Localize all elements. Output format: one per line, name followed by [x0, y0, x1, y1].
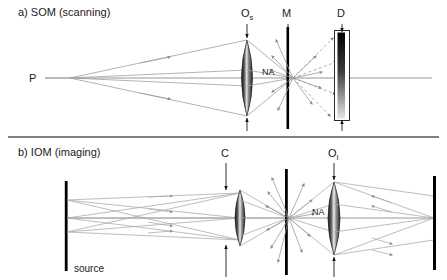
source-bar: [65, 181, 68, 271]
image-plane-bar: [433, 176, 436, 270]
objective-lens-oi: [328, 182, 340, 255]
panel-a-title: a) SOM (scanning): [18, 6, 110, 18]
source-label-b: source: [74, 263, 104, 274]
detector-d: [335, 31, 350, 121]
objective-input-rays-b: [289, 182, 334, 255]
objective-os-label: Os: [241, 7, 254, 22]
na-label-a: NA: [262, 67, 275, 77]
source-rays-b: [67, 193, 240, 240]
na-label-b: NA: [312, 207, 325, 217]
source-ray-arrows-b: [148, 196, 172, 233]
source-label-p: P: [29, 72, 36, 84]
panel-a-group: a) SOM (scanning) P NA Os M D: [18, 6, 432, 131]
mask-m-label: M: [282, 7, 291, 19]
panel-b-group: b) IOM (imaging) source NA C OI: [18, 146, 436, 277]
optics-diagram-canvas: a) SOM (scanning) P NA Os M D: [0, 0, 447, 280]
panel-b-title: b) IOM (imaging): [18, 146, 101, 158]
optics-figure: a) SOM (scanning) P NA Os M D: [0, 0, 447, 280]
objective-lens-os: [242, 40, 253, 116]
condenser-c-label: C: [221, 147, 229, 159]
scattered-rays-b: [266, 178, 314, 262]
objective-oi-label: OI: [328, 147, 339, 162]
mask-bar-m: [287, 27, 290, 129]
detector-d-label: D: [337, 7, 345, 19]
image-rays-b: [334, 182, 434, 255]
